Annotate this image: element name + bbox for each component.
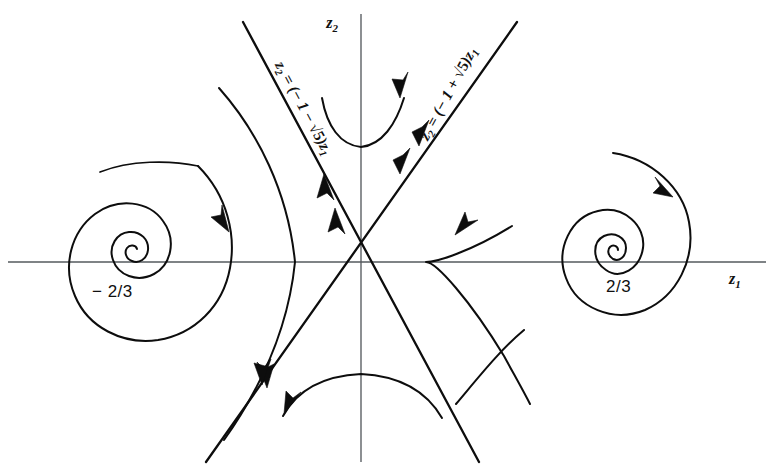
left-spiral-trajectory	[69, 166, 232, 341]
axes-group	[8, 14, 766, 462]
bottom-center-curve	[283, 374, 442, 418]
top-center-curve	[322, 98, 404, 147]
arrow-bottom-center	[284, 391, 301, 414]
right-fixed-point-label: 2/3	[606, 277, 631, 296]
left-outer-upper-trajectory	[100, 162, 198, 172]
right-hyperbola-trajectory	[426, 212, 530, 404]
left-spiral-arm	[69, 166, 232, 341]
top-center-trajectory	[322, 72, 408, 147]
arrow-left-spiral	[211, 205, 229, 232]
horizontal-axis-label: z1	[728, 270, 741, 290]
left-outer-upper-curve	[100, 162, 198, 172]
arrow-right-hyperbola-upper	[455, 212, 478, 235]
arrow-right-spiral	[653, 177, 673, 197]
arrow-sep-neg-mid	[328, 208, 345, 234]
left-fixed-point-label: − 2/3	[92, 282, 133, 301]
arrow-top-center	[392, 72, 408, 98]
right-outer-lower-trajectory	[456, 330, 524, 404]
right-outer-lower-curve	[456, 330, 524, 404]
separatrix-positive-label: z2 = (− 1 + √5)z1	[399, 20, 496, 175]
bottom-center-trajectory	[283, 374, 442, 418]
phase-portrait-figure: z2 z1 − 2/3 2/3 z2 = (− 1 − √5)z1 z2 = (…	[0, 0, 775, 470]
phase-plane-canvas: z2 z1 − 2/3 2/3 z2 = (− 1 − √5)z1 z2 = (…	[0, 0, 775, 470]
separatrix-positive-label-group: z2 = (− 1 + √5)z1	[399, 20, 496, 175]
vertical-axis-label: z2	[325, 14, 338, 34]
